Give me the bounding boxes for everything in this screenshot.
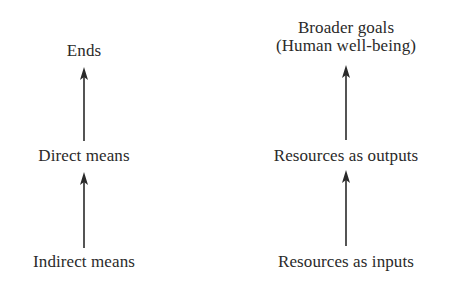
arrow-up-icon xyxy=(342,65,350,140)
arrow-up-icon xyxy=(342,170,350,246)
arrow-up-icon xyxy=(80,67,88,141)
arrow-up-icon xyxy=(80,172,88,248)
arrows-layer xyxy=(0,0,455,281)
